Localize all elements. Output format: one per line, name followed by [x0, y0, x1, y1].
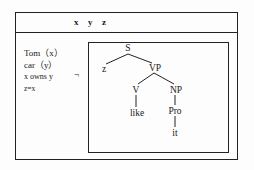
tree-node-vp: VP — [149, 63, 161, 73]
tree-node-v: V — [133, 85, 140, 95]
tree-node-like: like — [130, 108, 144, 118]
tree-node-pro: Pro — [168, 106, 181, 116]
tree-node-it: it — [172, 128, 177, 138]
tree-node-z: z — [102, 64, 106, 74]
syntax-tree-edges — [0, 0, 254, 170]
tree-node-s: S — [125, 43, 130, 53]
tree-node-np: NP — [170, 85, 182, 95]
